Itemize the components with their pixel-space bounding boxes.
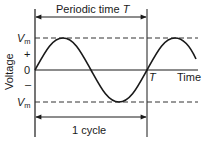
diagram-canvas: Periodic time T 1 cycle Vm Vm + 0 – Volt…: [0, 0, 212, 142]
minus-label: –: [25, 78, 32, 90]
sine-wave-diagram: Periodic time T 1 cycle Vm Vm + 0 – Volt…: [0, 0, 212, 142]
voltage-axis-label: Voltage: [3, 53, 15, 90]
time-axis-label: Time: [177, 71, 201, 83]
vm-bottom-label: Vm: [17, 96, 31, 110]
plus-label: +: [24, 48, 30, 60]
one-cycle-label: 1 cycle: [72, 124, 106, 136]
t-marker-label: T: [149, 71, 157, 83]
periodic-time-label: Periodic time T: [56, 3, 131, 15]
vm-top-label: Vm: [17, 32, 31, 46]
zero-label: 0: [24, 64, 30, 76]
